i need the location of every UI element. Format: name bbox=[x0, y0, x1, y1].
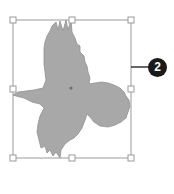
callout-badge: 2 bbox=[148, 58, 167, 77]
canvas: 2 bbox=[0, 0, 174, 194]
handle-bottom-middle[interactable] bbox=[69, 155, 75, 161]
center-dot bbox=[69, 86, 72, 89]
handle-top-middle[interactable] bbox=[69, 17, 75, 23]
handle-middle-right[interactable] bbox=[128, 86, 134, 92]
handle-middle-left[interactable] bbox=[10, 86, 16, 92]
handle-top-right[interactable] bbox=[128, 17, 134, 23]
handle-top-left[interactable] bbox=[10, 17, 16, 23]
handle-bottom-right[interactable] bbox=[128, 155, 134, 161]
handle-bottom-left[interactable] bbox=[10, 155, 16, 161]
